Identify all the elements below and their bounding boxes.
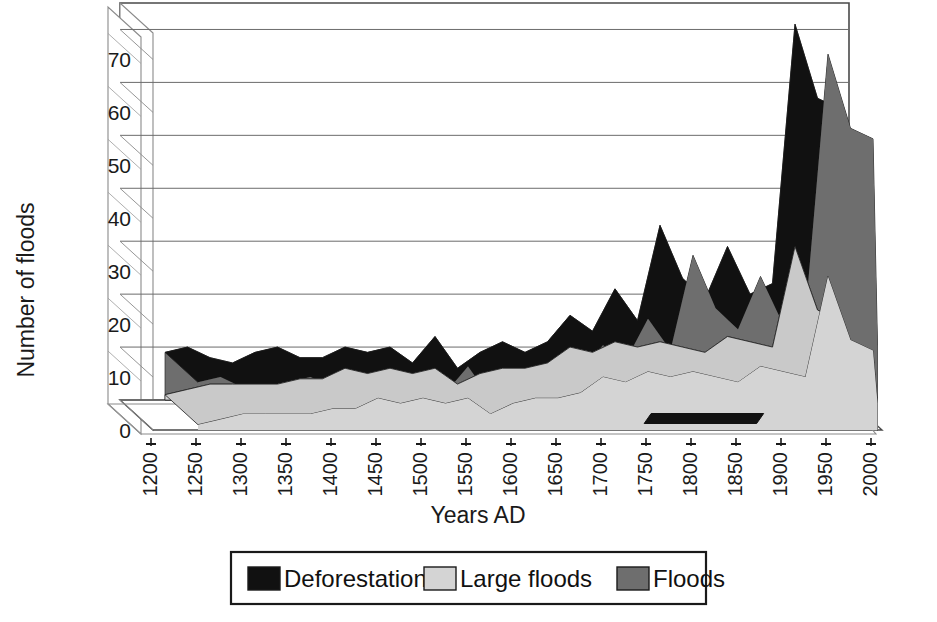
y-tick-label: 30 [108,260,131,283]
legend-swatch-large-floods [424,567,456,590]
x-tick-label: 1550 [454,452,476,497]
x-tick-label: 1300 [229,452,251,497]
y-tick-label: 40 [108,207,131,230]
x-axis-title: Years AD [430,502,525,528]
legend-swatch-deforestation [248,567,280,590]
x-tick-label: 1200 [139,452,161,497]
x-tick-label: 2000 [859,452,881,497]
x-tick-label: 1600 [499,452,521,497]
y-axis-title: Number of floods [13,202,39,377]
deforestation-bar [644,414,764,424]
x-tick-label: 1700 [589,452,611,497]
legend-label-floods: Floods [653,565,725,592]
flood-frequency-area-chart: 706050403020100 120012501300135014001450… [0,0,937,622]
y-tick-label: 70 [108,48,131,71]
x-tick-label: 1500 [409,452,431,497]
deforestation-period-bar [644,414,764,424]
x-tick-label: 1950 [814,452,836,497]
legend-swatch-floods [617,567,649,590]
x-tick-label: 1800 [679,452,701,497]
y-tick-label: 60 [108,101,131,124]
y-tick-label: 50 [108,154,131,177]
y-tick-label: 0 [119,419,131,442]
legend-label-large-floods: Large floods [460,565,592,592]
x-tick-label: 1400 [319,452,341,497]
chart-figure: 706050403020100 120012501300135014001450… [0,0,937,622]
x-tick-label: 1750 [634,452,656,497]
x-tick-label: 1250 [184,452,206,497]
x-tick-label: 1650 [544,452,566,497]
legend-label-deforestation: Deforestation [284,565,427,592]
y-tick-label: 20 [108,313,131,336]
y-tick-label: 10 [108,366,131,389]
x-tick-label: 1350 [274,452,296,497]
x-tick-label: 1450 [364,452,386,497]
x-tick-label: 1900 [769,452,791,497]
x-tick-label: 1850 [724,452,746,497]
chart-legend: DeforestationLarge floodsFloods [231,552,725,604]
x-axis-tick-labels: 1200125013001350140014501500155016001650… [139,452,881,497]
